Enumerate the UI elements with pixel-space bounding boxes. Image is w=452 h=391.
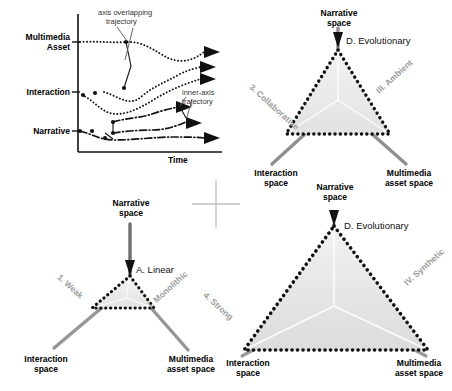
- triangle-linear-left-vertex-line1: Interaction: [24, 354, 67, 364]
- trajectory-narrative-upper: [113, 107, 180, 122]
- triangle-linear-apex-line2: space: [119, 208, 143, 218]
- triangle-bottom-right-vertex-line1: Multimedia: [397, 358, 441, 368]
- triangle-linear-apex-line1: Narrative: [113, 198, 150, 208]
- inner-axis-connector: [105, 107, 186, 139]
- triangle-bottom-mode-label: D. Evolutionary: [344, 220, 408, 231]
- triangle-bottom-left-vertex-line2: space: [236, 368, 260, 378]
- trajectory-narrative-lower: [80, 131, 204, 140]
- triangle-bottom-apex-line2: space: [323, 192, 347, 202]
- triangle-top-mode-label: D. Evolutionary: [346, 35, 410, 46]
- triangle-top-apex-line1: Narrative: [321, 8, 358, 18]
- triangle-bottom-right-vertex-line2: asset space: [395, 368, 443, 378]
- annotation-axis-overlapping-line1: axis overlapping: [98, 8, 152, 17]
- triangle-bottom-left-vertex-line1: Interaction: [226, 358, 269, 368]
- x-label-time: Time: [168, 155, 218, 165]
- annotation-inner-axis: inner-axis trajectory: [182, 88, 215, 106]
- trajectory-nodes: [78, 40, 128, 140]
- triangle-bottom-apex-line1: Narrative: [317, 182, 354, 192]
- timeline-chart-panel: Multimedia Asset Interaction Narrative T…: [0, 0, 250, 180]
- annotation-axis-overlapping-line2: trajectory: [106, 17, 137, 26]
- trajectory-multimedia-upper: [80, 42, 204, 61]
- triangle-linear-left-vertex-line2: space: [34, 364, 58, 374]
- triangle-fill-region: [244, 226, 428, 350]
- triangle-top-left-vertex-line2: space: [264, 178, 288, 188]
- triangle-linear-mode-label: A. Linear: [136, 264, 174, 275]
- triangle-bottom-apex-label: Narrative space: [294, 182, 376, 202]
- triangle-top-right-vertex-line1: Multimedia: [387, 168, 431, 178]
- triangle-bottom-right-vertex-label: Multimedia asset space: [378, 358, 452, 378]
- annotation-axis-overlapping: axis overlapping trajectory: [98, 8, 152, 26]
- triangle-top-right-vertex-line2: asset space: [385, 178, 433, 188]
- trajectory-narrative-mid: [113, 122, 186, 133]
- triangle-top-left-vertex-line1: Interaction: [254, 168, 297, 178]
- trajectory-group-dashdot: [80, 107, 204, 140]
- apex-arrow-icon: [333, 32, 343, 48]
- annotation-inner-axis-line1: inner-axis: [182, 88, 215, 97]
- y-label-narrative: Narrative: [2, 126, 70, 136]
- triangle-linear-apex-label: Narrative space: [90, 198, 172, 218]
- triangle-top-apex-line2: space: [327, 18, 351, 28]
- triangle-bottom-left-vertex-label: Interaction space: [208, 358, 288, 378]
- triangle-top-apex-label: Narrative space: [298, 8, 380, 28]
- triangle-top-right-vertex-label: Multimedia asset space: [368, 168, 450, 188]
- triangle-linear-left-vertex-label: Interaction space: [6, 354, 86, 374]
- y-label-interaction: Interaction: [2, 87, 70, 97]
- annotation-inner-axis-line2: trajectory: [182, 97, 213, 106]
- apex-arrow-icon: [125, 260, 135, 276]
- triangle-evolutionary-bottom-panel: Narrative space D. Evolutionary Interact…: [220, 198, 452, 391]
- y-label-multimedia-asset: Multimedia Asset: [2, 32, 70, 52]
- triangle-linear-right-vertex-line1: Multimedia: [169, 354, 213, 364]
- y-label-multimedia-line1: Multimedia: [26, 32, 70, 42]
- triangle-evolutionary-top-panel: Narrative space D. Evolutionary Interact…: [224, 8, 452, 200]
- apex-arrow-icon: [329, 210, 339, 226]
- y-label-multimedia-line2: Asset: [47, 42, 70, 52]
